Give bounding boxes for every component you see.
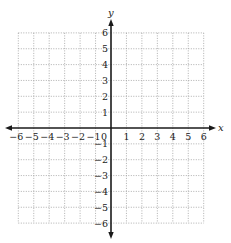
y-tick-label: 4 [102,59,108,70]
x-tick-label: 6 [201,131,207,142]
x-tick-label: −5 [25,131,39,142]
x-tick-label: 4 [170,131,176,142]
x-axis-left-arrow-icon [5,125,12,130]
y-axis-label: y [107,7,114,18]
y-tick-label: −4 [94,186,108,197]
x-tick-labels: −6−5−4−3−2−1123456 [9,131,206,142]
x-tick-label: 1 [123,131,129,142]
y-tick-label: 3 [102,75,108,86]
axes: x y 0 [5,7,224,239]
y-axis-up-arrow-icon [108,19,113,26]
y-tick-label: −1 [94,138,108,149]
y-axis-down-arrow-icon [108,232,113,239]
y-tick-label: 5 [102,43,108,54]
x-tick-label: 2 [139,131,145,142]
y-tick-label: −2 [94,154,108,165]
y-tick-label: −6 [94,218,108,229]
x-tick-label: 5 [185,131,191,142]
x-tick-label: −2 [71,131,85,142]
y-tick-label: −5 [94,202,108,213]
y-tick-label: 2 [102,91,108,102]
x-axis-label: x [218,122,224,133]
x-tick-label: −3 [56,131,70,142]
y-tick-label: −3 [94,170,108,181]
x-axis-right-arrow-icon [209,125,216,130]
x-tick-label: −6 [9,131,23,142]
x-tick-label: −4 [40,131,54,142]
x-tick-label: 3 [154,131,160,142]
y-tick-label: 6 [102,27,108,38]
y-tick-label: 1 [102,107,108,118]
coordinate-plane: x y 0 −6−5−4−3−2−1123456 −6−5−4−3−2−1123… [0,0,231,243]
